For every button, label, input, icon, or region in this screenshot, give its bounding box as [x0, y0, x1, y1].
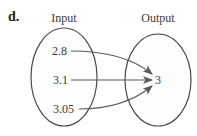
input-value-3-05: 3.05 — [53, 102, 74, 116]
input-title: Input — [51, 11, 77, 25]
output-title: Output — [141, 11, 175, 25]
mapping-diagram: d. Input Output 2.8 3.1 3.05 3 — [0, 0, 197, 136]
output-value-3: 3 — [155, 73, 161, 87]
input-value-2-8: 2.8 — [52, 44, 67, 58]
input-value-3-1: 3.1 — [53, 73, 68, 87]
part-label: d. — [8, 9, 19, 24]
